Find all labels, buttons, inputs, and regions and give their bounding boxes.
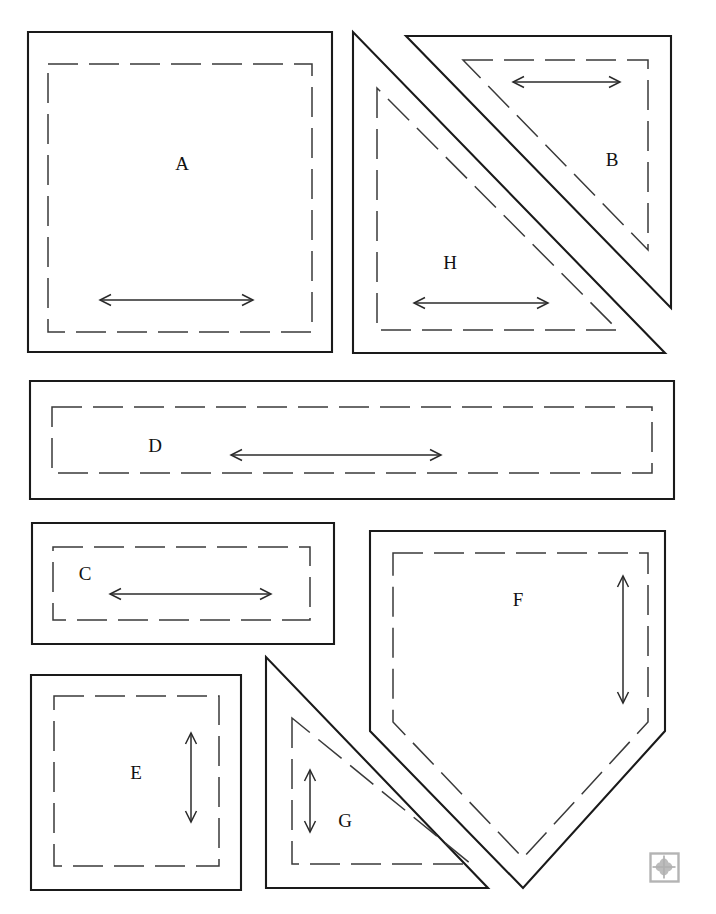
piece-label-G: G	[338, 810, 352, 831]
pattern-piece-F[interactable]: F	[370, 531, 665, 888]
seam-line-C	[53, 547, 310, 620]
pattern-piece-A[interactable]: A	[28, 32, 332, 352]
piece-label-C: C	[79, 563, 92, 584]
pattern-sheet: AHBDCFEG	[0, 0, 716, 914]
cut-line-F	[370, 531, 665, 888]
seam-line-H	[377, 88, 618, 330]
seam-line-A	[48, 64, 312, 332]
pattern-piece-D[interactable]: D	[30, 381, 674, 499]
piece-label-E: E	[130, 762, 142, 783]
pattern-piece-E[interactable]: E	[31, 675, 241, 890]
piece-label-F: F	[513, 589, 524, 610]
cut-line-A	[28, 32, 332, 352]
pattern-piece-G[interactable]: G	[266, 657, 488, 888]
cut-line-H	[353, 32, 665, 353]
pattern-piece-H[interactable]: H	[353, 32, 665, 353]
piece-label-A: A	[175, 153, 189, 174]
piece-label-B: B	[606, 149, 619, 170]
pattern-piece-C[interactable]: C	[32, 523, 334, 644]
piece-label-H: H	[443, 252, 457, 273]
cut-line-D	[30, 381, 674, 499]
seam-line-D	[52, 407, 652, 473]
cut-line-C	[32, 523, 334, 644]
cut-line-G	[266, 657, 488, 888]
publisher-clover-logo	[651, 854, 679, 882]
pattern-canvas: AHBDCFEG	[0, 0, 716, 914]
seam-line-B	[463, 60, 648, 250]
piece-label-D: D	[148, 435, 162, 456]
